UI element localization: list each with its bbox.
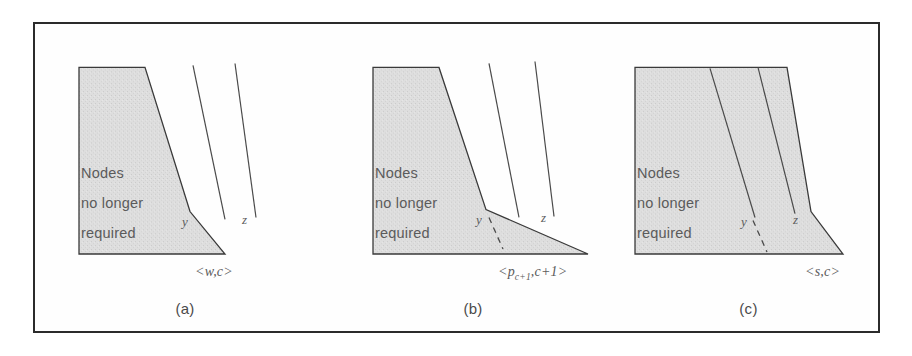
- caption-b: (b): [323, 300, 623, 317]
- region-text-c-line1: Nodes: [637, 162, 680, 184]
- figure-border-frame: Nodes no longer required y z <w,c> (a): [33, 22, 880, 333]
- vertex-label-b-symbol: p: [508, 264, 515, 279]
- region-text-a-line1: Nodes: [81, 162, 124, 184]
- region-text-b-line2: no longer: [375, 192, 437, 214]
- panel-c: Nodes no longer required y z <s,c> (c): [615, 24, 882, 331]
- line-label-y-c: y: [741, 214, 747, 230]
- region-text-b-line1: Nodes: [375, 162, 418, 184]
- panel-b-graphic: [323, 24, 623, 331]
- region-text-a-line2: no longer: [81, 192, 143, 214]
- vertex-label-b-open: <: [498, 264, 508, 279]
- region-text-c-line2: no longer: [637, 192, 699, 214]
- line-label-y-b: y: [476, 212, 482, 228]
- figure-root: Nodes no longer required y z <w,c> (a): [0, 0, 912, 356]
- line-label-z-c: z: [793, 212, 798, 228]
- region-text-a-line3: required: [81, 222, 136, 244]
- vertex-label-b: <pc+1,c+1>: [498, 264, 567, 282]
- caption-a: (a): [35, 300, 335, 317]
- region-text-b-line3: required: [375, 222, 430, 244]
- region-text-c-line3: required: [637, 222, 692, 244]
- vertex-label-b-close: >: [558, 264, 568, 279]
- line-y-b: [489, 63, 519, 217]
- vertex-label-b-subscript: c+1: [515, 272, 531, 282]
- vertex-label-c: <s,c>: [805, 264, 840, 280]
- line-label-z-a: z: [242, 212, 247, 228]
- vertex-label-a: <w,c>: [195, 264, 233, 280]
- vertex-label-b-second: c+1: [535, 264, 558, 279]
- panel-a-graphic: [35, 24, 335, 331]
- line-label-z-b: z: [541, 210, 546, 226]
- line-z-b: [535, 62, 554, 217]
- panel-b: Nodes no longer required y z <pc+1,c+1> …: [323, 24, 623, 331]
- line-label-y-a: y: [182, 214, 188, 230]
- panel-a: Nodes no longer required y z <w,c> (a): [35, 24, 335, 331]
- line-y-a: [193, 65, 225, 219]
- line-z-a: [235, 63, 256, 217]
- caption-c: (c): [615, 300, 882, 317]
